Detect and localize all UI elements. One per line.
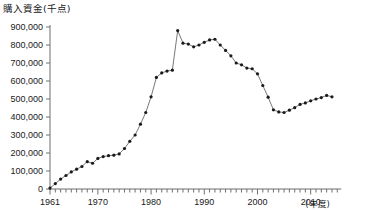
data-point-marker — [70, 170, 73, 173]
data-point-marker — [330, 95, 333, 98]
data-point-marker — [48, 187, 51, 190]
data-point-marker — [272, 108, 275, 111]
data-point-marker — [251, 67, 254, 70]
data-point-marker — [112, 154, 115, 157]
data-point-marker — [235, 61, 238, 64]
data-point-marker — [245, 66, 248, 69]
y-axis-tick-label: 700,000 — [10, 58, 43, 68]
x-axis: 196119701980199020002010 — [40, 189, 341, 207]
data-point-marker — [123, 147, 126, 150]
data-point-marker — [171, 69, 174, 72]
chart-plot-area: 0100,000200,000300,000400,000500,000600,… — [0, 0, 372, 210]
data-point-marker — [91, 162, 94, 165]
data-point-marker — [102, 155, 105, 158]
data-point-marker — [192, 45, 195, 48]
data-point-marker — [288, 109, 291, 112]
data-point-marker — [267, 96, 270, 99]
data-point-marker — [134, 133, 137, 136]
data-point-marker — [240, 63, 243, 66]
y-axis-tick-label: 800,000 — [10, 40, 43, 50]
x-axis-unit-label: (年度) — [305, 197, 330, 209]
x-axis-tick-label: 1961 — [40, 197, 60, 207]
data-point-marker — [128, 140, 131, 143]
data-point-marker — [96, 157, 99, 160]
x-axis-tick-label: 1980 — [141, 197, 161, 207]
data-point-marker — [160, 71, 163, 74]
data-point-marker — [144, 111, 147, 114]
data-point-marker — [139, 123, 142, 126]
y-axis-tick-label: 900,000 — [10, 22, 43, 32]
data-point-marker — [298, 103, 301, 106]
data-point-marker — [118, 152, 121, 155]
y-axis-tick-label: 500,000 — [10, 94, 43, 104]
data-point-marker — [86, 160, 89, 163]
data-point-marker — [320, 96, 323, 99]
data-point-marker — [213, 38, 216, 41]
data-series-group — [48, 29, 333, 190]
y-axis-tick-label: 100,000 — [10, 166, 43, 176]
y-axis-tick-label: 400,000 — [10, 112, 43, 122]
data-point-marker — [197, 43, 200, 46]
data-point-marker — [314, 97, 317, 100]
y-axis-tick-label: 0 — [38, 184, 43, 194]
data-point-marker — [282, 111, 285, 114]
data-point-marker — [203, 41, 206, 44]
data-point-marker — [149, 95, 152, 98]
data-point-marker — [176, 29, 179, 32]
x-axis-tick-label: 1990 — [194, 197, 214, 207]
y-axis-tick-label: 300,000 — [10, 130, 43, 140]
data-point-marker — [304, 101, 307, 104]
data-point-marker — [165, 70, 168, 73]
x-axis-tick-label: 2000 — [247, 197, 267, 207]
data-point-marker — [256, 72, 259, 75]
y-axis-tick-label: 600,000 — [10, 76, 43, 86]
data-point-marker — [107, 154, 110, 157]
y-axis: 0100,000200,000300,000400,000500,000600,… — [10, 22, 50, 194]
data-point-marker — [261, 84, 264, 87]
data-point-marker — [277, 110, 280, 113]
data-point-marker — [208, 38, 211, 41]
data-point-marker — [59, 178, 62, 181]
data-point-marker — [54, 182, 57, 185]
data-point-marker — [181, 42, 184, 45]
data-point-marker — [80, 165, 83, 168]
data-point-marker — [155, 76, 158, 79]
purchase-funds-line-chart: 購入資金(千点) 0100,000200,000300,000400,00050… — [0, 0, 372, 210]
data-point-marker — [325, 94, 328, 97]
data-point-marker — [187, 43, 190, 46]
x-axis-tick-label: 1970 — [88, 197, 108, 207]
data-point-marker — [293, 106, 296, 109]
y-axis-tick-label: 200,000 — [10, 148, 43, 158]
data-point-marker — [229, 54, 232, 57]
data-point-marker — [309, 99, 312, 102]
data-point-marker — [75, 168, 78, 171]
data-point-marker — [224, 49, 227, 52]
data-point-marker — [64, 174, 67, 177]
data-point-marker — [219, 43, 222, 46]
